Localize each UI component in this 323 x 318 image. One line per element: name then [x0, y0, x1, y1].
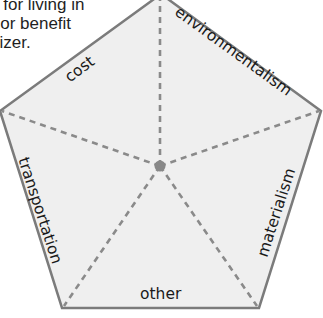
pentagon-organizer — [0, 0, 323, 318]
center-dot — [155, 161, 166, 172]
label-other: other — [140, 287, 181, 303]
